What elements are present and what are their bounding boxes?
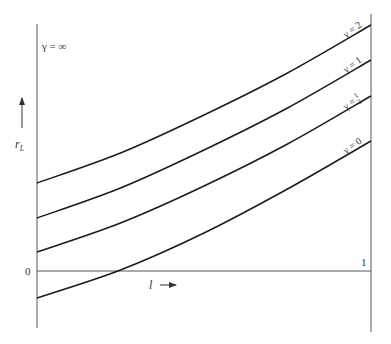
x-end-tick-label: 1 [361, 256, 367, 268]
gamma-infinity-label: γ = ∞ [41, 40, 67, 52]
curve--2 [37, 25, 371, 183]
curve-label-gamma-half: γ =12 [339, 91, 364, 115]
origin-tick-label: 0 [25, 265, 31, 277]
curve-label-gamma-0: γ = 0 [340, 135, 364, 156]
x-axis-label: l [149, 278, 153, 292]
y-axis-label: rL [15, 137, 25, 153]
r-l-vs-l-chart: rL l 0 1 γ = ∞ γ = 2 γ = 1 γ =12 γ = 0 [0, 0, 391, 344]
curves-group [37, 25, 371, 298]
curve--1-2 [37, 96, 371, 252]
curve--1 [37, 60, 371, 218]
curve--0 [37, 141, 371, 298]
